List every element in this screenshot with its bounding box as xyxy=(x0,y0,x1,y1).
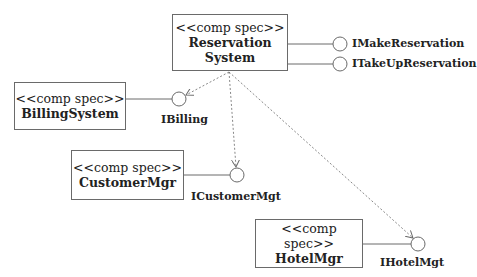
interface-label-ihotel: IHotelMgt xyxy=(380,256,444,269)
ihotel-lollipop-icon xyxy=(411,237,425,251)
dep-billing-arrow xyxy=(186,72,229,95)
dep-customer-arrow xyxy=(229,72,236,167)
imake-lollipop-icon xyxy=(333,37,347,51)
interface-label-imake: IMakeReservation xyxy=(352,37,464,50)
component-reservation-system: <<comp spec>> Reservation System xyxy=(172,14,288,71)
dep-hotel-arrow xyxy=(229,72,413,238)
component-name-line1: Reservation xyxy=(188,35,271,50)
component-name-line2: System xyxy=(205,50,255,65)
interface-label-itakeup: ITakeUpReservation xyxy=(352,57,477,70)
component-customer-mgr: <<comp spec>> CustomerMgr xyxy=(71,150,184,200)
component-hotel-mgr: <<comp spec>> HotelMgr xyxy=(255,219,363,268)
icustomer-lollipop-icon xyxy=(230,168,244,182)
stereotype: <<comp spec>> xyxy=(15,91,124,106)
interface-label-icustomer: ICustomerMgt xyxy=(191,190,281,203)
stereotype: <<comp spec>> xyxy=(256,221,362,251)
stereotype: <<comp spec>> xyxy=(175,20,284,35)
ibilling-lollipop-icon xyxy=(172,92,186,106)
itakeup-lollipop-icon xyxy=(333,57,347,71)
interface-label-ibilling: IBilling xyxy=(161,113,208,126)
component-name: CustomerMgr xyxy=(79,175,176,190)
component-billing-system: <<comp spec>> BillingSystem xyxy=(14,82,126,130)
component-name: BillingSystem xyxy=(21,106,119,121)
component-name: HotelMgr xyxy=(275,251,343,266)
stereotype: <<comp spec>> xyxy=(73,160,182,175)
